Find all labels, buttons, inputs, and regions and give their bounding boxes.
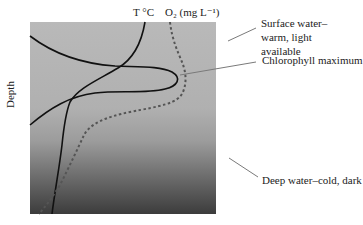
- temperature-axis-label: T °C: [133, 6, 154, 19]
- deep-leader-line: [229, 158, 258, 177]
- surface-leader-line: [228, 28, 256, 41]
- water-column-background: [30, 22, 216, 214]
- depth-axis-label: Depth: [4, 81, 17, 108]
- deep-water-annotation: Deep water–cold, dark: [262, 174, 362, 187]
- chlorophyll-maximum-annotation: Chlorophyll maximum: [262, 54, 363, 67]
- surface-water-annotation: Surface water–warm, light available: [261, 16, 346, 58]
- oxygen-axis-label: O₂ (mg L⁻¹): [165, 6, 219, 19]
